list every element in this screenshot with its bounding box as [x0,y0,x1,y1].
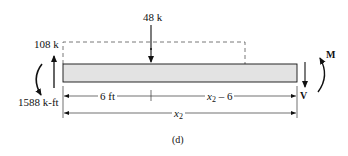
dashed-cut-outline [63,42,245,64]
internal-moment-arrow [318,58,325,92]
shear-label: V [300,90,307,102]
dimension-6ft-label: 6 ft [98,90,117,102]
reaction-moment-label: 1588 k-ft [18,96,59,108]
dimension-x2-minus-6-label: x2 – 6 [205,90,234,102]
dim-rest: – 6 [216,90,233,102]
free-body-diagram [0,0,348,156]
beam-segment [63,64,297,82]
figure-caption: (d) [172,134,184,146]
point-load-label: 48 k [143,11,162,23]
dimension-x2-label: x2 [172,107,185,119]
point-load-arrow [150,25,152,62]
reaction-force-label: 108 k [34,38,59,50]
internal-moment-label: M [326,49,335,61]
reaction-moment-arrow [36,64,42,95]
dim-total-sub: 2 [179,112,183,121]
